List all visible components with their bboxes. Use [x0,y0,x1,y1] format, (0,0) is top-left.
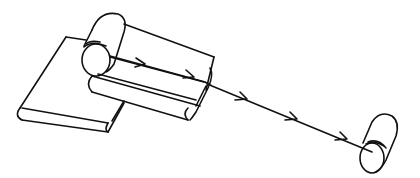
middle-bar [89,76,201,120]
take-up-roll [360,114,397,173]
supply-roll [82,13,125,76]
diagram-canvas [0,0,420,178]
arrow-icon [335,132,347,140]
web-path [110,56,372,152]
upper-plate [98,24,214,120]
diagram-svg [0,0,420,178]
